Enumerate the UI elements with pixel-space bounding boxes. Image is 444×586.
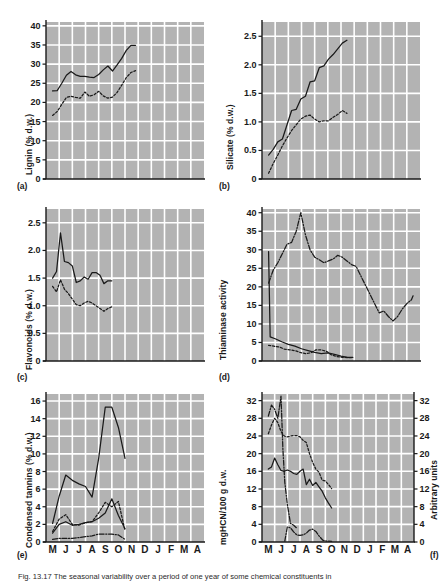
ytick-e: 14 — [30, 414, 40, 424]
panel-c-plot: 00.51.01.52.02.5 — [0, 195, 220, 380]
ytick-right-f: 28 — [420, 413, 430, 423]
ytick-d: 25 — [246, 263, 256, 273]
ytick-a: 5 — [35, 155, 40, 165]
ytick-right-f: 24 — [420, 431, 430, 441]
ytick-b: 1.5 — [244, 88, 257, 98]
ytick-f: 20 — [246, 449, 256, 459]
panel-a-plot: 0510152025303540 — [0, 0, 220, 200]
ytick-d: 20 — [246, 282, 256, 292]
ytick-c: 1.0 — [28, 301, 41, 311]
xtick-e-9: F — [168, 544, 174, 555]
ytick-a: 40 — [30, 21, 40, 31]
ytick-b: 1.0 — [244, 117, 257, 127]
ytick-c: 2.5 — [28, 218, 41, 228]
xtick-f-5: O — [328, 544, 336, 555]
ytick-e: 6 — [35, 484, 40, 494]
ytick-e: 0 — [35, 537, 40, 547]
xtick-f-7: D — [353, 544, 360, 555]
xtick-f-6: N — [341, 544, 348, 555]
figure-caption: Fig. 13.17 The seasonal variability over… — [18, 572, 430, 585]
ytick-f: 28 — [246, 413, 256, 423]
ytick-d: 40 — [246, 208, 256, 218]
ytick-f: 4 — [251, 519, 256, 529]
panel-b-plot: 00.51.01.52.02.5 — [222, 0, 444, 200]
xtick-e-3: A — [88, 544, 95, 555]
ytick-e: 8 — [35, 467, 40, 477]
ytick-a: 10 — [30, 136, 40, 146]
ytick-a: 0 — [35, 174, 40, 184]
ytick-e: 2 — [35, 519, 40, 529]
panel-d-plot: 0510152025303540 — [222, 195, 444, 380]
ytick-e: 16 — [30, 396, 40, 406]
xtick-e-1: J — [63, 544, 69, 555]
xtick-f-8: J — [367, 544, 373, 555]
xtick-e-8: J — [155, 544, 161, 555]
ytick-e: 12 — [30, 431, 40, 441]
ytick-e: 4 — [35, 502, 40, 512]
ytick-c: 1.5 — [28, 273, 41, 283]
ytick-right-f: 20 — [420, 449, 430, 459]
ytick-d: 15 — [246, 300, 256, 310]
xtick-e-4: S — [102, 544, 109, 555]
ytick-f: 24 — [246, 431, 256, 441]
ytick-b: 2.5 — [244, 31, 257, 41]
panel-f-plot: 048121620242832048121620242832MJJASONDJF… — [222, 380, 444, 560]
xtick-e-11: A — [194, 544, 201, 555]
ytick-a: 35 — [30, 40, 40, 50]
ytick-f: 8 — [251, 502, 256, 512]
xtick-e-0: M — [48, 544, 56, 555]
ytick-a: 15 — [30, 117, 40, 127]
ytick-a: 25 — [30, 78, 40, 88]
xtick-f-9: F — [379, 544, 385, 555]
ytick-d: 5 — [251, 337, 256, 347]
ytick-c: 2.0 — [28, 245, 41, 255]
ytick-a: 20 — [30, 97, 40, 107]
ytick-d: 30 — [246, 245, 256, 255]
ytick-d: 35 — [246, 226, 256, 236]
ytick-b: 0 — [251, 174, 256, 184]
xtick-f-0: M — [264, 544, 272, 555]
xtick-f-3: A — [303, 544, 310, 555]
panel-e-plot: 0246810121416MJJASONDJFMA — [0, 380, 220, 560]
xtick-e-6: N — [128, 544, 135, 555]
xtick-e-2: J — [76, 544, 82, 555]
ytick-right-f: 12 — [420, 484, 430, 494]
xtick-e-7: D — [141, 544, 148, 555]
ytick-right-f: 8 — [420, 502, 425, 512]
ytick-c: 0 — [35, 356, 40, 366]
ytick-b: 0.5 — [244, 145, 257, 155]
ytick-c: 0.5 — [28, 328, 41, 338]
xtick-e-10: M — [180, 544, 188, 555]
ytick-d: 10 — [246, 319, 256, 329]
ytick-f: 0 — [251, 537, 256, 547]
ytick-f: 16 — [246, 466, 256, 476]
ytick-e: 10 — [30, 449, 40, 459]
ytick-a: 30 — [30, 59, 40, 69]
xtick-f-11: A — [404, 544, 411, 555]
ytick-b: 2.0 — [244, 60, 257, 70]
ytick-right-f: 4 — [420, 519, 425, 529]
ytick-f: 12 — [246, 484, 256, 494]
xtick-f-10: M — [391, 544, 399, 555]
ytick-right-f: 32 — [420, 396, 430, 406]
ytick-d: 0 — [251, 356, 256, 366]
ytick-right-f: 0 — [420, 537, 425, 547]
ytick-right-f: 16 — [420, 466, 430, 476]
xtick-f-1: J — [278, 544, 284, 555]
figure-container: Lignin (% d.w.) (a) 0510152025303540 Sil… — [0, 0, 444, 586]
xtick-e-5: O — [115, 544, 123, 555]
xtick-f-4: S — [316, 544, 323, 555]
ytick-f: 32 — [246, 396, 256, 406]
xtick-f-2: J — [291, 544, 297, 555]
